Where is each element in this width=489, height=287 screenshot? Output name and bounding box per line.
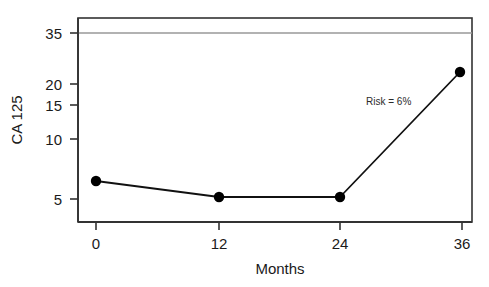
ca125-line-chart: 35 20 15 10 5 0 12 24 36: [0, 0, 489, 287]
y-axis-title: CA 125: [8, 95, 25, 144]
data-point-0[interactable]: [91, 176, 101, 186]
x-tick-label-36: 36: [454, 235, 471, 252]
y-tick-label-35: 35: [45, 25, 62, 42]
x-tick-label-24: 24: [332, 235, 349, 252]
chart-canvas: 35 20 15 10 5 0 12 24 36: [0, 0, 489, 287]
y-tick-label-15: 15: [45, 97, 62, 114]
chart-background: [0, 0, 489, 287]
y-tick-label-5: 5: [54, 191, 62, 208]
data-point-12[interactable]: [214, 192, 224, 202]
x-axis-title: Months: [255, 260, 304, 277]
y-tick-label-10: 10: [45, 131, 62, 148]
y-tick-label-20: 20: [45, 76, 62, 93]
data-point-36[interactable]: [455, 67, 465, 77]
x-tick-label-0: 0: [92, 235, 100, 252]
data-point-24[interactable]: [335, 192, 345, 202]
risk-annotation: Risk = 6%: [366, 96, 411, 107]
x-tick-label-12: 12: [211, 235, 228, 252]
